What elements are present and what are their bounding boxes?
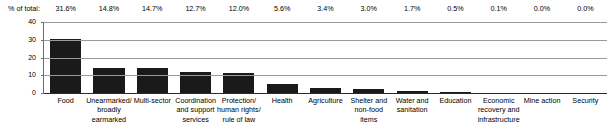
plot-area xyxy=(44,22,607,93)
y-axis-tick-label: 20 xyxy=(10,54,36,62)
bar xyxy=(353,89,384,93)
gridline-20 xyxy=(44,58,607,59)
percent-of-total-value: 0.0% xyxy=(520,4,563,13)
y-tick-10 xyxy=(41,75,44,76)
bar xyxy=(137,68,168,93)
percent-of-total-value: 0.5% xyxy=(434,4,477,13)
percent-of-total-value: 12.0% xyxy=(217,4,260,13)
percent-of-total-value: 12.7% xyxy=(174,4,217,13)
y-tick-30 xyxy=(41,40,44,41)
percent-of-total-value: 31.6% xyxy=(44,4,87,13)
x-axis-category-label: Security xyxy=(558,96,613,105)
bar xyxy=(267,84,298,93)
gridline-10 xyxy=(44,75,607,76)
bar xyxy=(440,92,471,93)
percent-of-total-value: 5.6% xyxy=(261,4,304,13)
percent-of-total-value: 0.0% xyxy=(564,4,607,13)
percent-of-total-caption: % of total: xyxy=(8,4,40,13)
gridline-40 xyxy=(44,22,607,23)
y-axis-tick-label: 0 xyxy=(10,89,36,97)
bar-chart: % of total: 31.6%14.8%14.7%12.7%12.0%5.6… xyxy=(0,0,615,135)
percent-of-total-value: 1.7% xyxy=(390,4,433,13)
bar xyxy=(93,68,124,93)
bar xyxy=(50,39,81,93)
bar xyxy=(310,88,341,93)
x-axis-line xyxy=(43,93,607,94)
gridline-30 xyxy=(44,40,607,41)
percent-of-total-value: 0.1% xyxy=(477,4,520,13)
y-axis-tick-label: 30 xyxy=(10,36,36,44)
y-tick-20 xyxy=(41,58,44,59)
percent-of-total-value: 14.7% xyxy=(131,4,174,13)
percent-of-total-value: 14.8% xyxy=(87,4,130,13)
bar xyxy=(397,91,428,93)
y-tick-40 xyxy=(41,22,44,23)
percent-of-total-value: 3.4% xyxy=(304,4,347,13)
y-axis-tick-label: 10 xyxy=(10,71,36,79)
category-label-row: FoodUnearmarked/broadlyearmarkedMulti-se… xyxy=(44,96,607,135)
y-tick-0 xyxy=(41,93,44,94)
y-axis-tick-label: 40 xyxy=(10,18,36,26)
percent-of-total-value: 3.0% xyxy=(347,4,390,13)
percent-of-total-row: % of total: 31.6%14.8%14.7%12.7%12.0%5.6… xyxy=(0,0,615,18)
